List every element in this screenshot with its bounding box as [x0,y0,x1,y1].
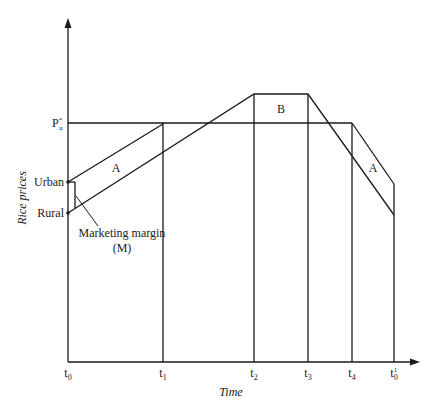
y-axis-label: Rice prices [15,171,29,226]
tick-t2: t2 [250,366,257,382]
price-time-diagram: Rice prices P*u Urban Rural A B A Market… [0,0,443,415]
x-axis [68,359,420,366]
x-axis-label: Time [219,385,243,399]
y-axis [65,18,72,362]
tick-t0-prime: t01 [390,366,397,382]
tick-t0: t0 [64,366,71,382]
p-u-star-label: P*u [52,116,63,132]
rural-label: Rural [37,206,64,220]
rural-price-path [68,94,394,215]
urban-label: Urban [34,175,64,189]
urban-point [66,180,70,184]
tick-t3: t3 [304,366,311,382]
marketing-margin-abbrev: (M) [113,241,132,255]
region-a-left: A [112,161,121,175]
tick-t1: t1 [159,366,166,382]
rural-point [66,211,70,215]
tick-t4: t4 [348,366,355,382]
region-a-right: A [369,161,378,175]
marketing-margin-label: Marketing margin [79,226,166,240]
region-b: B [277,102,285,116]
